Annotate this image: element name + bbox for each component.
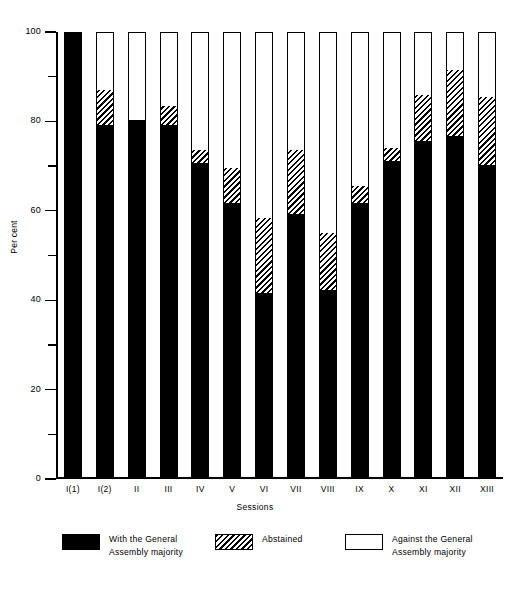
bar-segment-with <box>414 142 432 479</box>
y-axis-tick-label: 40 <box>1 294 41 304</box>
y-axis-tick-label: 20 <box>1 384 41 394</box>
plot-area <box>57 32 503 479</box>
bar-segment-with <box>128 121 146 479</box>
white-swatch <box>345 534 383 550</box>
bar-segment-abstained <box>191 150 209 163</box>
legend-label: Against the General Assembly majority <box>392 533 473 558</box>
bar-segment-against <box>223 32 241 168</box>
bar-iii[interactable] <box>160 32 178 479</box>
y-axis-title: Per cent <box>9 207 19 267</box>
bar-segment-against <box>319 32 337 233</box>
bar-segment-with <box>96 126 114 479</box>
x-axis-tick-label: XIII <box>464 484 510 494</box>
bar-vi[interactable] <box>255 32 273 479</box>
y-axis-tick-major <box>45 300 56 301</box>
bar-segment-with <box>64 32 82 479</box>
bar-segment-abstained <box>319 233 337 291</box>
bar-segment-with <box>160 126 178 479</box>
bar-segment-with <box>191 164 209 479</box>
legend-item[interactable]: Against the General Assembly majority <box>345 533 473 558</box>
legend-item[interactable]: With the General Assembly majority <box>62 533 183 558</box>
bar-segment-abstained <box>383 148 401 161</box>
y-axis-tick-label: 80 <box>1 115 41 125</box>
bar-xiii[interactable] <box>478 32 496 479</box>
chart-legend: With the General Assembly majorityAbstai… <box>0 533 510 577</box>
y-axis-tick-minor <box>48 434 56 435</box>
bar-segment-abstained <box>223 168 241 204</box>
bar-segment-abstained <box>160 106 178 126</box>
bar-ix[interactable] <box>351 32 369 479</box>
bar-vii[interactable] <box>287 32 305 479</box>
bar-i2[interactable] <box>96 32 114 479</box>
bar-segment-against <box>255 32 273 218</box>
bar-segment-abstained <box>478 97 496 166</box>
bar-segment-with <box>255 294 273 480</box>
y-axis-tick-minor <box>48 255 56 256</box>
bar-segment-with <box>223 204 241 479</box>
bar-segment-with <box>287 215 305 479</box>
bar-segment-against <box>191 32 209 150</box>
bar-segment-against <box>128 32 146 121</box>
legend-label: With the General Assembly majority <box>109 533 183 558</box>
bar-segment-against <box>351 32 369 186</box>
bar-segment-abstained <box>96 90 114 126</box>
diagonal-hatch-swatch <box>215 534 253 550</box>
bar-segment-against <box>414 32 432 95</box>
legend-label: Abstained <box>262 533 302 546</box>
solid-black-swatch <box>62 534 100 550</box>
y-axis-tick-label: 100 <box>1 26 41 36</box>
bar-segment-with <box>478 166 496 479</box>
bar-ii[interactable] <box>128 32 146 479</box>
y-axis-tick-label: 60 <box>1 205 41 215</box>
stacked-bar-chart: Per cent 020406080100 I(1)I(2)IIIIIIVVVI… <box>0 0 510 590</box>
bar-segment-against <box>446 32 464 70</box>
bar-viii[interactable] <box>319 32 337 479</box>
bar-x[interactable] <box>383 32 401 479</box>
bar-iv[interactable] <box>191 32 209 479</box>
y-axis-tick-minor <box>48 344 56 345</box>
x-axis-title: Sessions <box>0 502 510 512</box>
bar-segment-with <box>446 137 464 479</box>
y-axis-tick-major <box>45 210 56 211</box>
bar-segment-with <box>383 162 401 479</box>
bar-segment-against <box>96 32 114 90</box>
y-axis-tick-major <box>45 31 56 32</box>
bar-segment-abstained <box>255 218 273 294</box>
bar-segment-abstained <box>287 150 305 215</box>
bar-segment-against <box>383 32 401 148</box>
bar-xii[interactable] <box>446 32 464 479</box>
bar-segment-abstained <box>446 70 464 137</box>
y-axis-tick-label: 0 <box>1 473 41 483</box>
y-axis-tick-major <box>45 121 56 122</box>
bar-v[interactable] <box>223 32 241 479</box>
y-axis-tick-minor <box>48 76 56 77</box>
y-axis-tick-minor <box>48 165 56 166</box>
bar-segment-against <box>478 32 496 97</box>
y-axis-tick-major <box>45 478 56 479</box>
bar-segment-abstained <box>351 186 369 204</box>
bar-segment-with <box>351 204 369 479</box>
x-axis-line <box>56 477 503 479</box>
bar-i1[interactable] <box>64 32 82 479</box>
bar-xi[interactable] <box>414 32 432 479</box>
bar-segment-against <box>160 32 178 106</box>
legend-item[interactable]: Abstained <box>215 533 302 550</box>
bar-segment-abstained <box>414 95 432 142</box>
bar-segment-with <box>319 291 337 479</box>
bar-segment-against <box>287 32 305 150</box>
y-axis-tick-major <box>45 389 56 390</box>
